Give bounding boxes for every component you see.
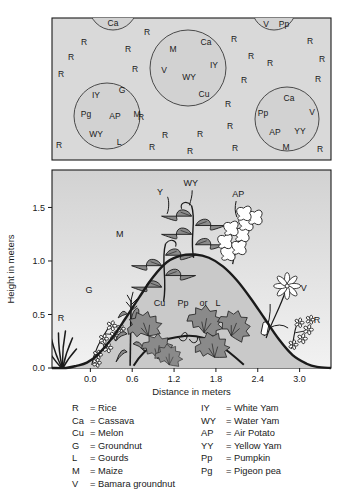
plan-rice-label: R (319, 54, 325, 64)
legend-equals: = (226, 453, 231, 463)
plan-rice-label: R (162, 130, 168, 140)
legend-name: Rice (98, 403, 117, 413)
legend-row: M=Maize (72, 466, 123, 476)
legend-code: M (72, 466, 80, 476)
plan-crop-label: M (282, 142, 289, 152)
plan-rice-label: R (307, 36, 313, 46)
plan-crop-label: Ca (201, 37, 212, 47)
plan-rice-label: R (232, 143, 238, 153)
plan-rice-label: R (197, 129, 203, 139)
profile-crop-label: M (116, 229, 124, 239)
profile-crop-label: WY (184, 178, 199, 188)
plan-crop-label: V (161, 65, 167, 75)
legend-name: Air Potato (234, 428, 275, 438)
x-tick-label: 2.4 (252, 374, 265, 384)
profile-view-panel: 0.00.51.01.5Height in meters0.00.61.21.8… (5, 170, 331, 397)
plan-rice-label: R (149, 142, 155, 152)
legend-code: Pg (201, 466, 212, 476)
plan-crop-label: V (309, 107, 315, 117)
plan-rice-label: R (187, 146, 193, 156)
plan-crop-label: V (263, 19, 269, 29)
plan-crop-label: WY (89, 129, 103, 139)
legend-equals: = (90, 441, 95, 451)
x-axis-title: Distance in meters (152, 386, 231, 397)
y-axis-title: Height in meters (5, 234, 16, 303)
legend-row: R=Rice (72, 403, 117, 413)
legend-name: Pumpkin (234, 453, 270, 463)
legend-name: Gourds (98, 453, 129, 463)
plan-crop-label: Ca (108, 18, 119, 28)
plan-rice-label: R (227, 121, 233, 131)
legend-equals: = (226, 416, 231, 426)
x-tick-label: 1.2 (168, 374, 181, 384)
plan-rice-label: R (132, 64, 138, 74)
profile-crop-label: Y (157, 187, 163, 197)
plan-view-panel: RRRRRRRRRRRRRRRRRRRRRRRCaVPpMCaVWYIYCuIY… (52, 0, 331, 160)
legend-equals: = (226, 441, 231, 451)
x-axis: 0.00.61.21.82.43.0Distance in meters (84, 368, 306, 397)
legend-row: Ca=Cassava (72, 416, 135, 426)
legend-equals: = (90, 416, 95, 426)
legend-row: WY=Water Yam (201, 416, 280, 426)
x-tick-label: 0.6 (126, 374, 139, 384)
legend-row: Pg=Pigeon pea (201, 466, 282, 476)
plan-rice-label: R (315, 74, 321, 84)
legend-code: Cu (72, 428, 84, 438)
legend-equals: = (90, 428, 95, 438)
legend-equals: = (226, 466, 231, 476)
legend-equals: = (90, 453, 95, 463)
profile-crop-label: L (215, 298, 220, 308)
legend-equals: = (90, 479, 95, 489)
plan-crop-label: G (119, 85, 126, 95)
legend-name: Groundnut (98, 441, 142, 451)
legend-row: L=Gourds (72, 453, 129, 463)
plan-crop-label: AP (269, 127, 281, 137)
legend-row: Pp=Pumpkin (201, 453, 270, 463)
legend-row: G=Groundnut (72, 441, 142, 451)
plan-rice-label: R (56, 140, 62, 150)
legend-code: R (72, 403, 79, 413)
legend-code: Pp (201, 453, 212, 463)
plan-crop-label: Pp (258, 108, 269, 118)
legend-code: AP (201, 428, 213, 438)
legend-name: Water Yam (234, 416, 280, 426)
profile-crop-label: R (58, 313, 65, 323)
legend-name: Bamara groundnut (98, 479, 175, 489)
plan-crop-label: YY (294, 126, 306, 136)
plan-crop-label: WY (182, 72, 196, 82)
legend-equals: = (226, 403, 231, 413)
plan-rice-label: R (81, 37, 87, 47)
legend-row: IY=White Yam (201, 403, 279, 413)
profile-crop-label: R (314, 315, 321, 325)
legend-name: Pigeon pea (234, 466, 282, 476)
legend-name: Maize (98, 466, 123, 476)
plan-crop-label: Pg (81, 109, 92, 119)
y-tick-label: 0.5 (32, 310, 45, 320)
y-tick-label: 0.0 (32, 363, 45, 373)
legend-name: Yellow Yam (234, 441, 282, 451)
legend-equals: = (226, 428, 231, 438)
plan-rice-label: R (58, 69, 64, 79)
x-tick-label: 0.0 (84, 374, 97, 384)
plan-rice-label: R (248, 51, 254, 61)
legend-code: IY (201, 403, 210, 413)
legend-equals: = (90, 466, 95, 476)
legend-code: L (72, 453, 77, 463)
plan-crop-label: IY (210, 60, 218, 70)
legend-code: WY (201, 416, 216, 426)
profile-crop-label: Pp (178, 298, 189, 308)
y-tick-label: 1.5 (32, 203, 45, 213)
crop-code-legend: R=RiceCa=CassavaCu=MelonG=GroundnutL=Gou… (72, 403, 282, 489)
plan-rice-label: R (68, 52, 74, 62)
legend-row: YY=Yellow Yam (201, 441, 282, 451)
profile-crop-label: or (199, 298, 207, 308)
plan-rice-label: R (241, 75, 247, 85)
plan-rice-label: R (267, 58, 273, 68)
profile-crop-label: AP (232, 189, 244, 199)
plan-crop-label: AP (109, 111, 121, 121)
profile-crop-label: Cu (154, 298, 166, 308)
plan-rice-label: R (144, 27, 150, 37)
profile-crop-label: G (85, 285, 92, 295)
plan-crop-label: M (169, 44, 176, 54)
plan-rice-label: R (125, 44, 131, 54)
